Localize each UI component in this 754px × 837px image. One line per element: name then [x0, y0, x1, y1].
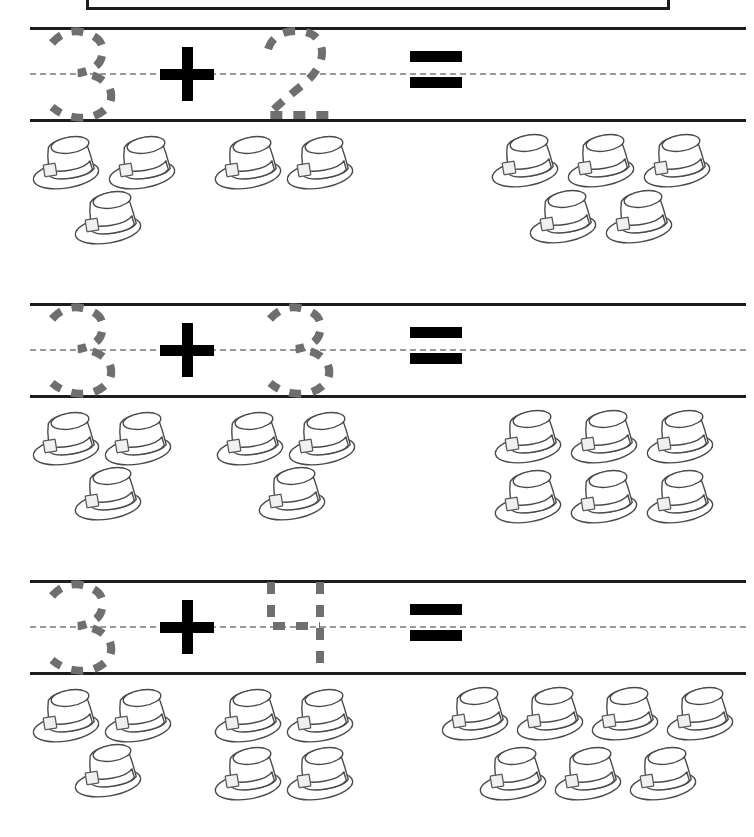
top-hat-icon — [28, 131, 108, 193]
top-hat-icon — [566, 405, 646, 467]
tracing-band-3 — [0, 580, 754, 676]
top-hat-icon — [601, 185, 681, 247]
top-hat-icon — [662, 682, 742, 744]
top-hat-icon — [254, 462, 334, 524]
top-hat-icon — [210, 684, 290, 746]
plus-sign-row-2 — [160, 323, 214, 377]
problem-row-3 — [0, 580, 754, 811]
tracing-band-1 — [0, 27, 754, 123]
top-hat-icon — [563, 129, 643, 191]
top-hat-icon — [210, 742, 290, 804]
trace-digit-addend-2-row-3[interactable] — [248, 576, 358, 680]
plus-sign-row-3 — [160, 600, 214, 654]
top-hat-icon — [639, 129, 719, 191]
equals-top-bar — [410, 327, 462, 338]
top-hat-icon — [70, 462, 150, 524]
top-hat-icon — [104, 131, 184, 193]
top-hat-icon — [210, 131, 290, 193]
top-hat-icon — [642, 465, 722, 527]
worksheet-title-box — [86, 0, 670, 10]
top-hat-icon — [70, 739, 150, 801]
trace-digit-addend-2-row-1[interactable] — [248, 23, 358, 127]
top-hat-icon — [100, 407, 180, 469]
top-hat-icon — [550, 742, 630, 804]
top-hat-icon — [282, 742, 362, 804]
top-hat-icon — [284, 407, 364, 469]
trace-digit-addend-1-row-3[interactable] — [30, 576, 140, 680]
equals-bottom-bar — [410, 77, 462, 88]
top-hat-icon — [512, 682, 592, 744]
top-hat-icon — [642, 405, 722, 467]
plus-sign-row-1 — [160, 47, 214, 101]
top-hat-icon — [28, 684, 108, 746]
top-hat-icon — [490, 405, 570, 467]
trace-digit-addend-1-row-1[interactable] — [30, 23, 140, 127]
top-hat-icon — [437, 682, 517, 744]
trace-digit-addend-2-row-2[interactable] — [248, 299, 358, 403]
top-hat-icon — [490, 465, 570, 527]
top-hat-icon — [282, 131, 362, 193]
equals-top-bar — [410, 51, 462, 62]
plus-vertical-bar — [182, 600, 193, 654]
equals-top-bar — [410, 604, 462, 615]
top-hat-icon — [100, 684, 180, 746]
problem-row-1 — [0, 27, 754, 258]
top-hat-icon — [475, 742, 555, 804]
top-hat-icon — [70, 186, 150, 248]
top-hat-icon — [525, 185, 605, 247]
top-hat-icon — [487, 129, 567, 191]
plus-vertical-bar — [182, 323, 193, 377]
top-hat-icon — [625, 742, 705, 804]
equals-sign-row-2 — [410, 327, 462, 369]
tracing-band-2 — [0, 303, 754, 399]
top-hat-icon — [212, 407, 292, 469]
top-hat-icon — [566, 465, 646, 527]
picture-band-2 — [0, 399, 754, 534]
equals-sign-row-1 — [410, 51, 462, 93]
top-hat-icon — [587, 682, 667, 744]
plus-vertical-bar — [182, 47, 193, 101]
equals-bottom-bar — [410, 630, 462, 641]
equals-sign-row-3 — [410, 604, 462, 646]
problem-row-2 — [0, 303, 754, 534]
trace-digit-addend-1-row-2[interactable] — [30, 299, 140, 403]
picture-band-3 — [0, 676, 754, 811]
top-hat-icon — [28, 407, 108, 469]
picture-band-1 — [0, 123, 754, 258]
top-hat-icon — [282, 684, 362, 746]
equals-bottom-bar — [410, 353, 462, 364]
